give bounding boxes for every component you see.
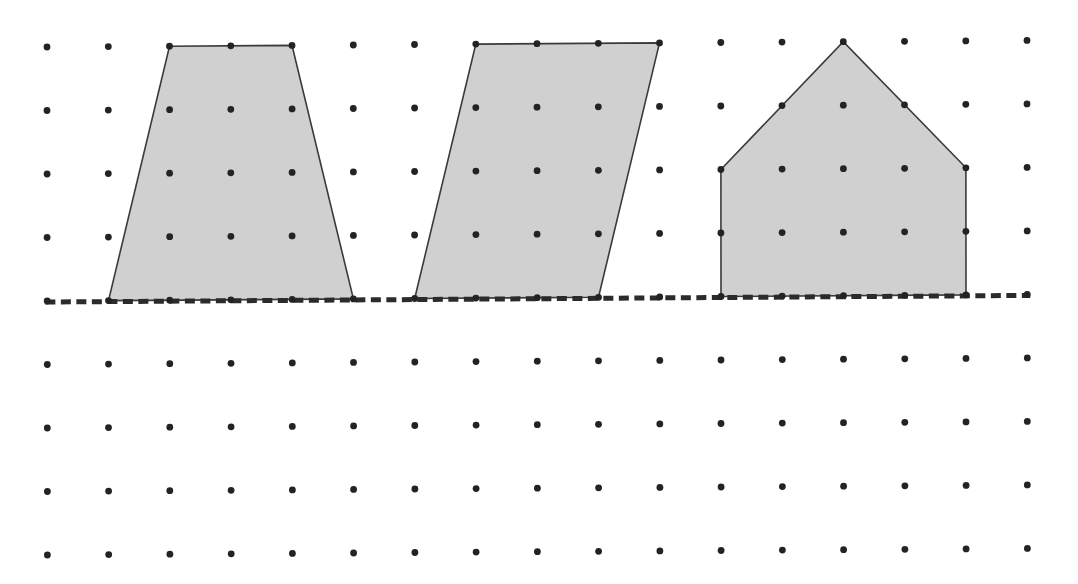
grid-dot (472, 41, 479, 48)
grid-dot (595, 421, 602, 428)
grid-dot (473, 549, 480, 556)
grid-dot (105, 424, 112, 431)
grid-dot (44, 171, 51, 178)
grid-dot (840, 483, 847, 490)
grid-dot (472, 104, 479, 111)
grid-dot (595, 484, 602, 491)
grid-dot (840, 229, 847, 236)
grid-dot (718, 293, 725, 300)
grid-dot (656, 294, 663, 301)
grid-dot (166, 297, 173, 304)
grid-dot (105, 170, 112, 177)
grid-dot (44, 552, 51, 559)
grid-dot (228, 550, 235, 557)
grid-dot (412, 486, 419, 493)
grid-dot (44, 107, 51, 114)
grid-dot (656, 421, 663, 428)
grid-dot (44, 361, 51, 368)
grid-dot (718, 547, 725, 554)
grid-dot (228, 296, 235, 303)
grid-dot (534, 231, 541, 238)
grid-dot (534, 485, 541, 492)
grid-dot (289, 360, 296, 367)
grid-dot (473, 485, 480, 492)
grid-dot (166, 424, 173, 431)
grid-dot (105, 107, 112, 114)
grid-dot (228, 360, 235, 367)
grid-dot (901, 419, 908, 426)
grid-dot (595, 167, 602, 174)
grid-dot (1024, 101, 1031, 108)
grid-dot (656, 230, 663, 237)
grid-dot (962, 101, 969, 108)
grid-dot (44, 425, 51, 432)
grid-dot (289, 233, 296, 240)
grid-dot (228, 423, 235, 430)
grid-dot (411, 105, 418, 112)
grid-dot (411, 168, 418, 175)
grid-dot (779, 229, 786, 236)
grid-dot (289, 106, 296, 113)
grid-dot (411, 295, 418, 302)
grid-dot (963, 228, 970, 235)
grid-dot (534, 104, 541, 111)
dot-grid-diagram (0, 0, 1078, 584)
grid-dot (473, 168, 480, 175)
grid-dot (411, 41, 418, 48)
grid-dot (779, 420, 786, 427)
grid-dot (166, 170, 173, 177)
grid-dot (718, 166, 725, 173)
grid-dot (595, 40, 602, 47)
grid-dot (289, 423, 296, 430)
grid-dot (901, 228, 908, 235)
grid-dot (534, 358, 541, 365)
grid-dot (717, 39, 724, 46)
grid-dot (350, 232, 357, 239)
grid-dot (350, 359, 357, 366)
grid-dot (963, 355, 970, 362)
grid-dot (289, 42, 296, 49)
grid-dot (473, 422, 480, 429)
grid-dot (350, 296, 357, 303)
grid-dot (1024, 482, 1031, 489)
grid-dot (656, 40, 663, 47)
grid-dot (718, 357, 725, 364)
grid-dot (473, 295, 480, 302)
grid-dot (595, 548, 602, 555)
grid-dot (718, 230, 725, 237)
grid-dot (167, 551, 174, 558)
grid-dot (840, 165, 847, 172)
grid-dot (779, 356, 786, 363)
grid-dot (105, 488, 112, 495)
grid-dot (902, 482, 909, 489)
grid-dot (656, 357, 663, 364)
grid-dot (44, 488, 51, 495)
grid-dot (105, 551, 112, 558)
grid-dot (656, 103, 663, 110)
grid-dot (963, 164, 970, 171)
grid-dot (1024, 355, 1031, 362)
grid-dot (350, 423, 357, 430)
grid-dot (227, 42, 234, 49)
grid-dot (840, 419, 847, 426)
grid-dot (105, 297, 112, 304)
grid-dot (657, 548, 664, 555)
grid-dot (902, 546, 909, 553)
grid-dot (534, 40, 541, 47)
grid-dot (718, 420, 725, 427)
grid-dot (412, 549, 419, 556)
grid-dot (840, 546, 847, 553)
grid-dot (350, 486, 357, 493)
grid-dot (534, 294, 541, 301)
grid-dot (105, 361, 112, 368)
grid-dot (718, 484, 725, 491)
grid-dot (963, 292, 970, 299)
grid-dot (595, 230, 602, 237)
grid-dot (228, 233, 235, 240)
grid-dot (534, 167, 541, 174)
grid-dot (595, 357, 602, 364)
grid-dot (227, 106, 234, 113)
grid-dot (228, 487, 235, 494)
grid-dot (473, 358, 480, 365)
grid-dot (963, 419, 970, 426)
